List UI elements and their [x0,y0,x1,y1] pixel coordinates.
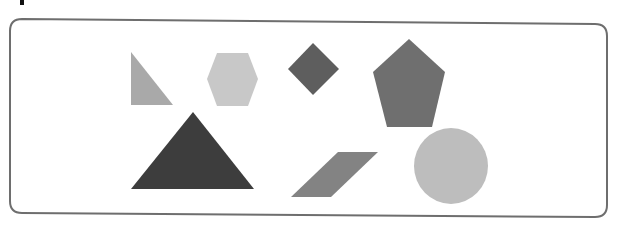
hexagon-shape [207,53,258,106]
circle-shape [414,128,488,204]
shapes-figure [0,0,617,229]
shapes-canvas [0,0,617,229]
